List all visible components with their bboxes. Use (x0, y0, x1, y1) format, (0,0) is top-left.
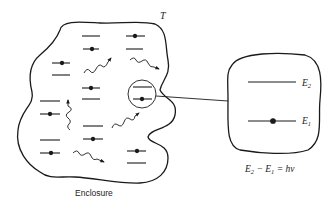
energy-level-pairs (40, 34, 152, 163)
magnified-view-outline (228, 53, 321, 153)
magnified-levels (248, 82, 296, 123)
energy-equation: E2 − E1 = hν (244, 164, 295, 175)
e2-label: E2 (301, 78, 312, 89)
connector-line (156, 96, 228, 101)
blackbody-diagram: T Enclosure E2 E1 E2 − E1 = hν (0, 0, 334, 209)
temperature-label: T (160, 10, 167, 21)
highlight-circle (128, 80, 156, 108)
photon-arrows (66, 58, 159, 162)
e1-label: E1 (301, 116, 311, 127)
enclosure-label: Enclosure (75, 188, 113, 198)
electron-dot (271, 119, 276, 124)
